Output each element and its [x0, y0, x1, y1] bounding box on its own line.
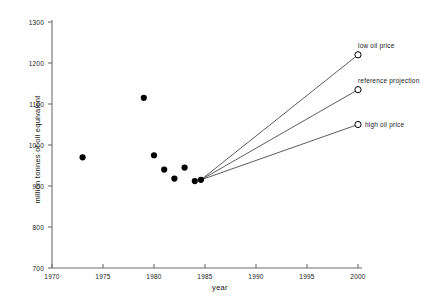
x-tick-label: 1990: [248, 273, 263, 280]
x-tick-label: 1970: [44, 273, 59, 280]
series-annotation: high oil price: [365, 121, 404, 128]
axes: [48, 20, 362, 268]
projection-lines: [201, 55, 358, 180]
x-axis-title: year: [0, 283, 440, 292]
x-tick-label: 1995: [299, 273, 314, 280]
x-tick-label: 2000: [350, 273, 365, 280]
y-tick-label: 700: [0, 265, 44, 272]
series-annotation: reference projection: [358, 77, 419, 84]
scatter-chart: 7008009001000110012001300 19701975198019…: [0, 0, 440, 308]
y-tick-label: 1300: [0, 19, 44, 26]
x-tick-label: 1975: [95, 273, 110, 280]
x-tick-label: 1980: [146, 273, 161, 280]
series-annotation: low oil price: [358, 42, 395, 49]
x-tick-label: 1985: [197, 273, 212, 280]
y-axis-title: million tonnes of oil equivalent: [33, 65, 42, 235]
